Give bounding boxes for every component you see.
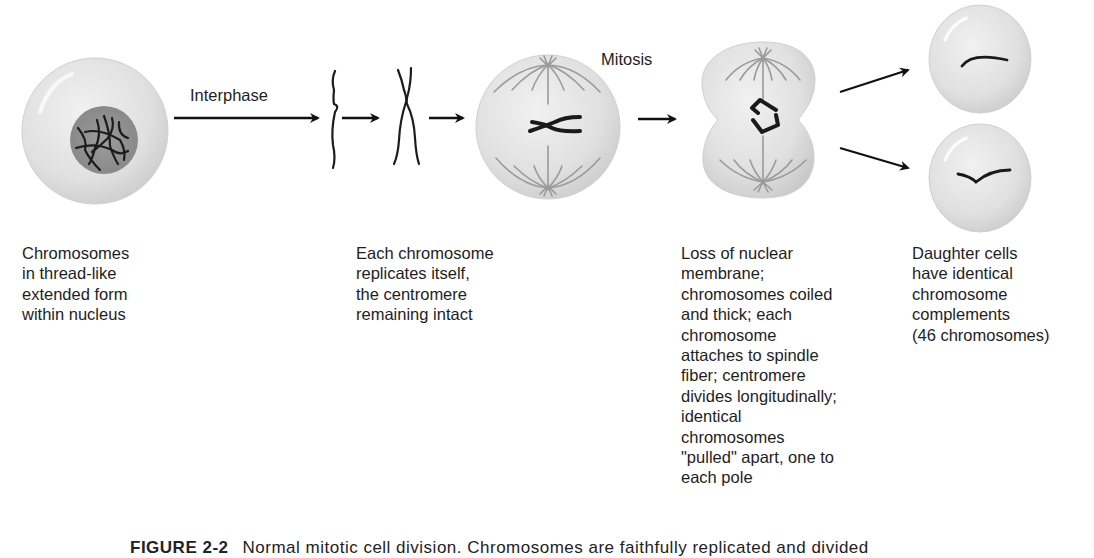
daughter-cell-top — [929, 5, 1031, 113]
anaphase-cell-illustration — [702, 42, 815, 198]
interphase-label: Interphase — [190, 86, 268, 105]
metaphase-cell-illustration — [476, 55, 620, 199]
replication-caption: Each chromosome replicates itself, the c… — [356, 243, 494, 325]
anaphase-caption: Loss of nuclear membrane; chromosomes co… — [681, 243, 837, 488]
arrow-to-daughter-top — [840, 70, 908, 92]
interphase-caption: Chromosomes in thread-like extended form… — [22, 243, 129, 325]
figure-caption-text: Normal mitotic cell division. Chromosome… — [243, 538, 869, 557]
figure-number: FIGURE 2-2 — [130, 538, 229, 557]
single-chromosome-icon — [332, 71, 337, 168]
daughter-cells-caption: Daughter cells have identical chromosome… — [912, 243, 1050, 345]
figure-caption: FIGURE 2-2Normal mitotic cell division. … — [130, 538, 869, 558]
interphase-cell-illustration — [22, 58, 168, 204]
replicated-chromosome-icon — [394, 68, 419, 164]
daughter-cell-bottom — [929, 124, 1031, 232]
arrow-to-daughter-bottom — [840, 148, 908, 168]
mitosis-label: Mitosis — [601, 50, 652, 69]
